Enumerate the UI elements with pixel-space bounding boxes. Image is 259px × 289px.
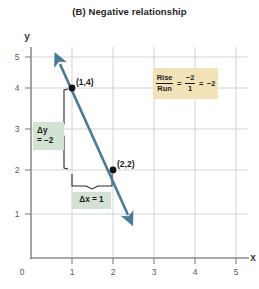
y-tick-label-1: 1 [15,209,20,219]
x-tick-label-5: 5 [234,267,239,277]
denominator-value: 1 [187,84,193,93]
x-tick-label-1: 1 [70,267,75,277]
x-axis-ticks [72,258,236,264]
y-tick-label-5: 5 [15,52,20,62]
y-tick-label-4: 4 [15,83,20,93]
y-axis-ticks [25,57,31,214]
origin-label: 0 [20,267,25,277]
x-tick-label-3: 3 [152,267,157,277]
data-point-label-2-2: (2,2) [117,159,135,169]
numerator-value: −2 [185,74,196,83]
x-tick-label-2: 2 [111,267,116,277]
equals-sign-2: = [198,79,203,88]
slope-result: −2 [207,79,216,88]
rise-over-run-fraction: Rise Run [156,74,174,93]
y-tick-label-3: 3 [15,124,20,134]
x-axis-label: x [250,252,256,263]
equals-sign-1: = [176,79,181,88]
y-tick-label-2: 2 [15,165,20,175]
slope-formula-annotation: Rise Run = −2 1 = −2 [153,68,218,99]
run-label: Run [156,84,173,93]
y-axis-label: y [24,31,30,42]
x-tick-label-4: 4 [193,267,198,277]
figure-panel: (B) Negative relationship [0,0,259,289]
delta-x-brace [72,174,112,189]
delta-x-annotation: Δx = 1 [72,192,111,209]
delta-y-symbol: Δy [37,126,47,136]
rise-label: Rise [156,74,174,83]
data-point-label-1-4: (1,4) [76,77,94,87]
value-fraction: −2 1 [185,74,196,93]
delta-x-text: Δx = 1 [79,195,103,205]
delta-y-annotation: Δy = −2 [33,122,64,150]
delta-y-value: = −2 [37,136,53,146]
data-point-2-2 [110,167,117,174]
data-point-1-4 [69,85,76,92]
